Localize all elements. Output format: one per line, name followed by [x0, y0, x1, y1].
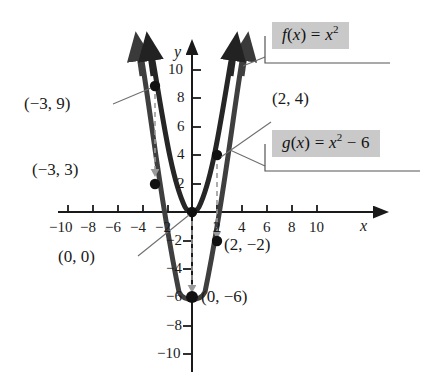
- point-label-0-neg6: (0, −6): [201, 288, 247, 305]
- y-tick-label-neg4: −4: [166, 261, 182, 276]
- parabola-translation-figure: f(x) = x2 g(x) = x2 − 6 x y −10 −8 −6 −4…: [0, 0, 442, 380]
- point-2-4: [212, 150, 222, 160]
- equation-g-tail: − 6: [342, 133, 369, 152]
- equation-f-exponent: 2: [333, 23, 339, 35]
- point-label-2-4: (2, 4): [272, 90, 309, 107]
- x-tick-label-neg6: −6: [105, 220, 121, 235]
- point-label-neg3-9: (−3, 9): [24, 95, 70, 112]
- x-axis-label: x: [360, 218, 367, 234]
- y-tick-label-neg6: −6: [166, 289, 182, 304]
- point-label-0-0: (0, 0): [58, 248, 95, 265]
- point-0-neg6: [186, 291, 198, 303]
- y-tick-label-neg10: −10: [157, 346, 180, 361]
- y-tick-label-6: 6: [177, 119, 185, 134]
- y-tick-label-neg2: −2: [166, 233, 182, 248]
- x-tick-label-6: 6: [263, 220, 271, 235]
- equation-g-fn: g: [282, 133, 291, 152]
- equation-label-g: g(x) = x2 − 6: [272, 130, 380, 157]
- point-label-neg3-3: (−3, 3): [32, 161, 78, 178]
- equation-label-f: f(x) = x2: [272, 22, 349, 49]
- x-tick-label-2: 2: [213, 220, 221, 235]
- point-neg3-3: [150, 179, 160, 189]
- x-tick-label-neg10: −10: [49, 220, 72, 235]
- x-tick-label-neg4: −4: [130, 220, 146, 235]
- x-tick-label-10: 10: [309, 220, 324, 235]
- point-2-neg2: [212, 236, 222, 246]
- y-tick-label-10: 10: [168, 62, 183, 77]
- y-axis-label: y: [174, 44, 181, 60]
- equation-f-body: (x) = x: [287, 25, 333, 44]
- point-label-2-neg2: (2, −2): [224, 236, 270, 253]
- point-neg3-9: [150, 81, 160, 91]
- y-tick-label-neg8: −8: [166, 318, 182, 333]
- x-tick-label-4: 4: [238, 220, 246, 235]
- y-tick-label-4: 4: [177, 147, 185, 162]
- y-tick-label-8: 8: [177, 90, 185, 105]
- leader-gx: [230, 150, 265, 166]
- graph-canvas: [0, 0, 442, 380]
- x-tick-label-8: 8: [288, 220, 296, 235]
- x-tick-label-neg8: −8: [80, 220, 96, 235]
- equation-g-body: (x) = x: [291, 133, 337, 152]
- y-tick-label-2: 2: [177, 176, 185, 191]
